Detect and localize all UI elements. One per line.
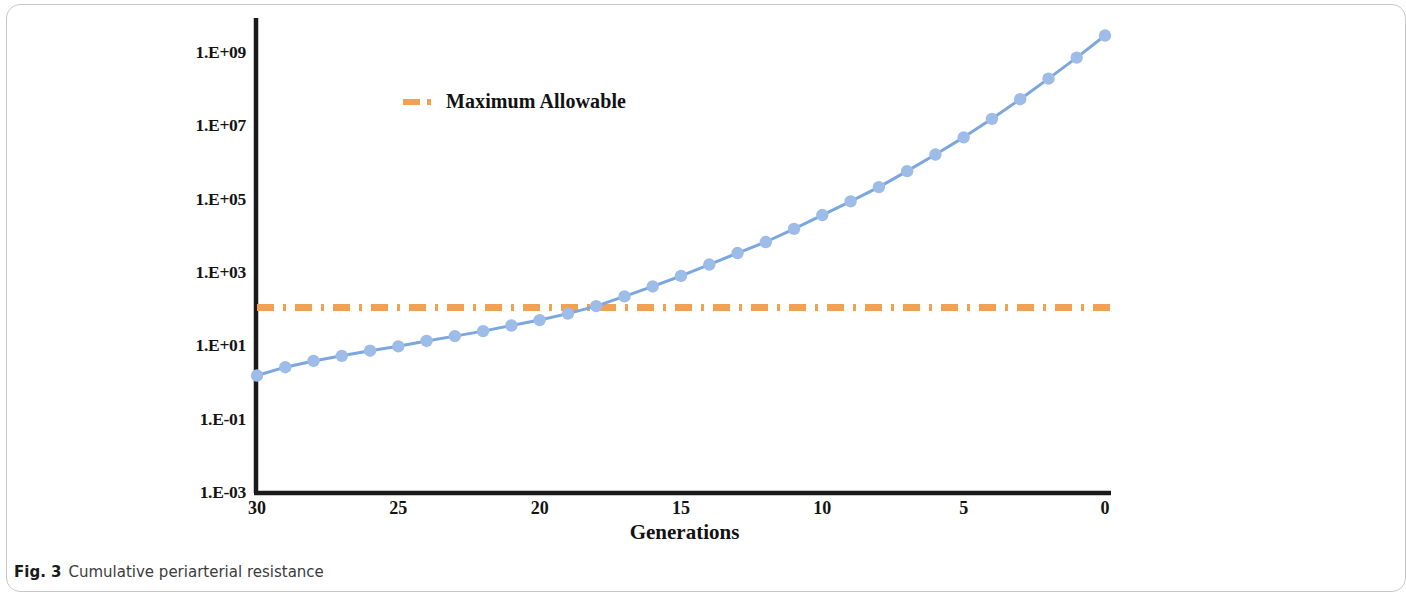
figure-caption-label: Fig. 3 — [14, 563, 61, 581]
legend-dash-dot-icon — [402, 95, 438, 109]
figure-caption-text: Cumulative periarterial resistance — [68, 563, 323, 581]
x-axis-tick-label: 15 — [651, 498, 711, 519]
x-axis-title: Generations — [257, 520, 1112, 545]
x-axis-tick-label: 0 — [1075, 498, 1135, 519]
figure-caption: Fig. 3 Cumulative periarterial resistanc… — [14, 563, 324, 581]
x-axis-tick-label: 25 — [368, 498, 428, 519]
legend-label-maximum-allowable: Maximum Allowable — [446, 90, 626, 113]
x-axis-tick-label: 20 — [510, 498, 570, 519]
chart-plot-area: 1.E+091.E+071.E+051.E+031.E+011.E-011.E-… — [0, 0, 1238, 545]
x-axis-tick-labels: 302520151050 — [0, 0, 1238, 545]
x-axis-tick-label: 10 — [792, 498, 852, 519]
x-axis-tick-label: 5 — [934, 498, 994, 519]
x-axis-tick-label: 30 — [227, 498, 287, 519]
chart-legend: Maximum Allowable — [402, 90, 626, 113]
